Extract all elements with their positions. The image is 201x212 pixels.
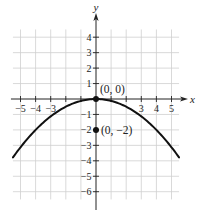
y-tick-label: −3: [81, 140, 92, 151]
y-tick-label: −6: [81, 186, 92, 197]
y-tick-label: 3: [87, 47, 92, 58]
focus-point-label: (0, −2): [101, 124, 133, 137]
y-tick-label: 1: [87, 78, 92, 89]
y-tick-label: 2: [87, 63, 92, 74]
x-axis-label: x: [189, 93, 195, 105]
x-tick-label: 3: [139, 103, 144, 114]
x-tick-label: −4: [30, 103, 41, 114]
y-tick-label: −2: [81, 124, 92, 135]
y-tick-label: −1: [81, 109, 92, 120]
focus-point-marker: [93, 127, 99, 133]
y-tick-label: −5: [81, 171, 92, 182]
y-tick-label: −4: [81, 155, 92, 166]
vertex-point-marker: [93, 96, 99, 102]
graph-canvas: xy −5−4−33454321−1−2−3−4−5−6 (0, 0)(0, −…: [0, 0, 201, 212]
x-tick-label: 4: [154, 103, 159, 114]
x-tick-label: 5: [169, 103, 174, 114]
x-tick-label: −3: [45, 103, 56, 114]
y-axis-label: y: [93, 1, 99, 13]
x-tick-label: −5: [15, 103, 26, 114]
parabola-graph: xy −5−4−33454321−1−2−3−4−5−6 (0, 0)(0, −…: [0, 0, 201, 212]
marked-points: (0, 0)(0, −2): [93, 83, 133, 137]
y-tick-label: 4: [87, 32, 92, 43]
vertex-point-label: (0, 0): [100, 83, 125, 96]
